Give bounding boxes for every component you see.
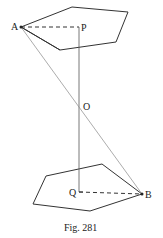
point-A: [20, 26, 23, 29]
label-P: P: [81, 22, 87, 33]
dashed-line-QB: [79, 192, 142, 194]
figure-canvas: A P O Q B Fig. 281: [0, 0, 163, 238]
label-O: O: [83, 101, 90, 112]
diagonal-line-AB: [21, 27, 142, 194]
point-B: [141, 193, 144, 196]
top-pentagon: [21, 7, 128, 50]
label-A: A: [11, 21, 19, 32]
label-B: B: [145, 189, 152, 200]
figure-caption: Fig. 281: [64, 222, 97, 233]
label-Q: Q: [69, 187, 77, 198]
line-A-to-lower: [21, 27, 60, 50]
